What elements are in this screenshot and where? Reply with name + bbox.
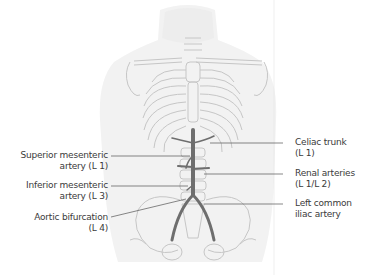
- label-inferior-mesenteric-artery: Inferior mesenteric artery (L 3): [26, 180, 108, 202]
- label-aortic-bifurcation: Aortic bifurcation (L 4): [34, 212, 108, 234]
- label-renal-arteries: Renal arteries (L 1/L 2): [295, 168, 355, 190]
- label-superior-mesenteric-artery: Superior mesenteric artery (L 1): [20, 150, 108, 172]
- label-celiac-trunk: Celiac trunk (L 1): [295, 137, 347, 159]
- label-left-common-iliac-artery: Left common iliac artery: [295, 198, 352, 220]
- anatomy-figure: Superior mesenteric artery (L 1) Inferio…: [0, 0, 373, 275]
